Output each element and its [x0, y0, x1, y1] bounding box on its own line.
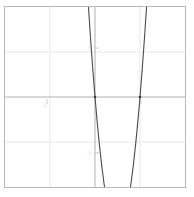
chart-figure: -1 1 1 -1 — [0, 0, 194, 197]
plot-area: -1 1 1 -1 — [4, 6, 186, 188]
parabola-curve — [5, 7, 185, 187]
root-dot-left — [94, 96, 97, 99]
root-dot-right — [139, 96, 142, 99]
